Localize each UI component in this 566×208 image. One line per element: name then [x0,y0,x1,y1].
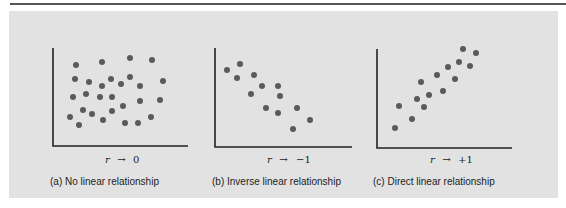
data-point [392,125,398,131]
data-point [414,96,420,102]
data-point [73,62,79,68]
data-point [277,93,283,99]
data-point [137,98,143,104]
panel-b-r-annotation: r → −1 [267,149,311,166]
data-point [100,117,106,123]
data-point [275,83,281,89]
data-point [137,83,143,89]
data-point [83,91,89,97]
data-point [396,103,402,109]
data-point [418,79,424,85]
panel-a-points [67,55,166,128]
data-point [76,122,82,128]
panel-c-points [392,46,479,131]
panel-c-axes [377,49,512,148]
data-point [426,92,432,98]
data-point [460,46,466,52]
data-point [86,79,92,85]
data-point [263,105,269,111]
data-point [157,97,163,103]
panel-b-axes [215,48,352,147]
data-point [89,111,95,117]
data-point [127,74,133,80]
data-point [118,81,124,87]
data-point [275,110,281,116]
data-point [160,78,166,84]
data-point [434,72,440,78]
data-point [456,59,462,65]
panel-a-caption: (a) No linear relationship [50,176,159,187]
panel-c: r → +1 (c) Direct linear relationship [373,46,512,187]
data-point [290,126,296,132]
data-point [440,88,446,94]
data-point [149,57,155,63]
data-point [122,120,128,126]
panel-a-r-annotation: r → 0 [105,149,139,166]
data-point [452,76,458,82]
data-point [421,104,427,110]
data-point [445,64,451,70]
data-point [70,94,76,100]
panel-c-caption: (c) Direct linear relationship [373,176,495,187]
data-point [109,94,115,100]
data-point [307,117,313,123]
data-point [67,114,73,120]
data-point [473,50,479,56]
data-point [109,108,115,114]
data-point [237,61,243,67]
scatter-figure: r → 0 (a) No linear relationship r → −1 … [0,0,566,208]
data-point [72,76,78,82]
panel-b-points [224,61,313,132]
data-point [248,91,254,97]
panel-b-caption: (b) Inverse linear relationship [212,176,341,187]
panel-a: r → 0 (a) No linear relationship [50,48,188,187]
data-point [108,76,114,82]
panel-c-r-annotation: r → +1 [430,149,473,166]
data-point [80,107,86,113]
data-point [234,75,240,81]
data-point [467,63,473,69]
data-point [99,59,105,65]
data-point [120,103,126,109]
data-point [148,114,154,120]
data-point [135,120,141,126]
data-point [409,116,415,122]
data-point [294,105,300,111]
data-point [127,55,133,61]
data-point [224,67,230,73]
data-point [97,94,103,100]
data-point [251,72,257,78]
data-point [259,83,265,89]
panel-b: r → −1 (b) Inverse linear relationship [212,48,352,187]
data-point [99,83,105,89]
